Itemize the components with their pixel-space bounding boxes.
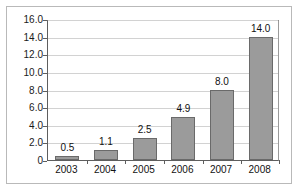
y-axis: 16.014.012.010.08.06.04.02.00 xyxy=(0,0,43,191)
x-axis-tick-label: 2005 xyxy=(133,164,155,175)
x-axis-tick-mark xyxy=(279,160,280,164)
bar-value-label: 14.0 xyxy=(251,24,270,34)
bar[interactable] xyxy=(55,156,79,160)
bar-slot: 1.1 xyxy=(87,21,126,160)
bar-value-label: 0.5 xyxy=(60,143,74,153)
x-axis-tick-label: 2008 xyxy=(249,164,271,175)
y-axis-tick-label: 4.0 xyxy=(29,121,43,131)
x-axis-tick-mark xyxy=(241,160,242,164)
bar[interactable] xyxy=(171,117,195,160)
bar-chart-figure: 16.014.012.010.08.06.04.02.00 0.51.12.54… xyxy=(0,0,299,191)
y-axis-tick-label: 8.0 xyxy=(29,86,43,96)
x-axis-tick-label: 2003 xyxy=(55,164,77,175)
x-axis-tick-mark xyxy=(203,160,204,164)
x-axis-tick-mark xyxy=(125,160,126,164)
bar-slot: 4.9 xyxy=(164,21,203,160)
y-axis-tick-mark xyxy=(43,161,47,162)
y-axis-tick-label: 14.0 xyxy=(24,33,43,43)
bar[interactable] xyxy=(249,37,273,160)
bar-value-label: 1.1 xyxy=(99,137,113,147)
y-axis-tick-label: 12.0 xyxy=(24,50,43,60)
y-axis-tick-label: 6.0 xyxy=(29,103,43,113)
y-axis-tick-label: 10.0 xyxy=(24,68,43,78)
x-axis-tick-label: 2006 xyxy=(171,164,193,175)
x-axis-tick-label: 2004 xyxy=(94,164,116,175)
bar-slot: 8.0 xyxy=(203,21,242,160)
bar-slot: 14.0 xyxy=(241,21,280,160)
bar-slot: 0.5 xyxy=(48,21,87,160)
plot-area: 0.51.12.54.98.014.0 xyxy=(47,20,279,161)
x-axis-tick-label: 2007 xyxy=(210,164,232,175)
bar-slot: 2.5 xyxy=(125,21,164,160)
bar-value-label: 2.5 xyxy=(138,125,152,135)
x-axis-tick-mark xyxy=(164,160,165,164)
bar[interactable] xyxy=(94,150,118,160)
bar-value-label: 8.0 xyxy=(215,77,229,87)
bar-value-label: 4.9 xyxy=(176,104,190,114)
y-axis-tick-label: 16.0 xyxy=(24,15,43,25)
y-axis-tick-label: 2.0 xyxy=(29,138,43,148)
bar[interactable] xyxy=(133,138,157,160)
bar[interactable] xyxy=(210,90,234,161)
x-axis-tick-mark xyxy=(87,160,88,164)
